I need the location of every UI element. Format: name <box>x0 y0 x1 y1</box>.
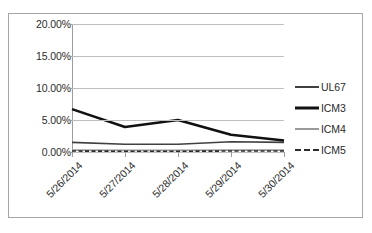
legend-item-label: UL67 <box>321 81 346 93</box>
y-axis-tick-label: 0.00% <box>15 147 71 158</box>
y-axis-tickmark <box>68 24 72 25</box>
legend-line-swatch-icon <box>295 145 319 155</box>
plot-area <box>72 24 284 152</box>
gridline <box>72 56 284 57</box>
chart-frame: 20.00%15.00%10.00%5.00%0.00% 5/26/20145/… <box>8 13 363 218</box>
x-axis-tickmark <box>125 152 126 157</box>
legend-item-icm5[interactable]: ICM5 <box>295 139 361 160</box>
chart-plot-wrapper: 20.00%15.00%10.00%5.00%0.00% 5/26/20145/… <box>9 14 364 219</box>
y-axis-tickmark <box>68 88 72 89</box>
y-axis-tick-label: 5.00% <box>15 115 71 126</box>
x-axis-tick-label: 5/29/2014 <box>190 159 244 213</box>
gridline <box>72 88 284 89</box>
x-axis-tickmark <box>178 152 179 157</box>
legend-line-swatch-icon <box>295 82 319 92</box>
x-axis-tickmark <box>72 152 73 157</box>
series-line-ul67 <box>72 142 284 145</box>
y-axis-tick-label: 10.00% <box>15 83 71 94</box>
x-axis-tick-label: 5/30/2014 <box>243 159 297 213</box>
legend-item-icm3[interactable]: ICM3 <box>295 97 361 118</box>
chart-legend: UL67ICM3ICM4ICM5 <box>295 76 361 160</box>
y-axis-tick-label: 15.00% <box>15 51 71 62</box>
x-axis-tick-label: 5/27/2014 <box>84 159 138 213</box>
gridline <box>72 24 284 25</box>
x-axis-tick-labels: 5/26/20145/27/20145/28/20145/29/20145/30… <box>72 159 302 217</box>
legend-line-swatch-icon <box>295 103 319 113</box>
x-axis-tickmark <box>284 152 285 157</box>
legend-item-label: ICM3 <box>321 102 346 114</box>
y-axis-tick-label: 20.00% <box>15 19 71 30</box>
legend-item-label: ICM4 <box>321 123 346 135</box>
legend-item-label: ICM5 <box>321 144 346 156</box>
y-axis-tickmark <box>68 56 72 57</box>
x-axis-tick-label: 5/28/2014 <box>137 159 191 213</box>
x-axis-tickmark <box>231 152 232 157</box>
legend-item-icm4[interactable]: ICM4 <box>295 118 361 139</box>
gridline <box>72 120 284 121</box>
legend-item-ul67[interactable]: UL67 <box>295 76 361 97</box>
y-axis-tickmark <box>68 120 72 121</box>
series-line-icm3 <box>72 109 284 140</box>
legend-line-swatch-icon <box>295 124 319 134</box>
